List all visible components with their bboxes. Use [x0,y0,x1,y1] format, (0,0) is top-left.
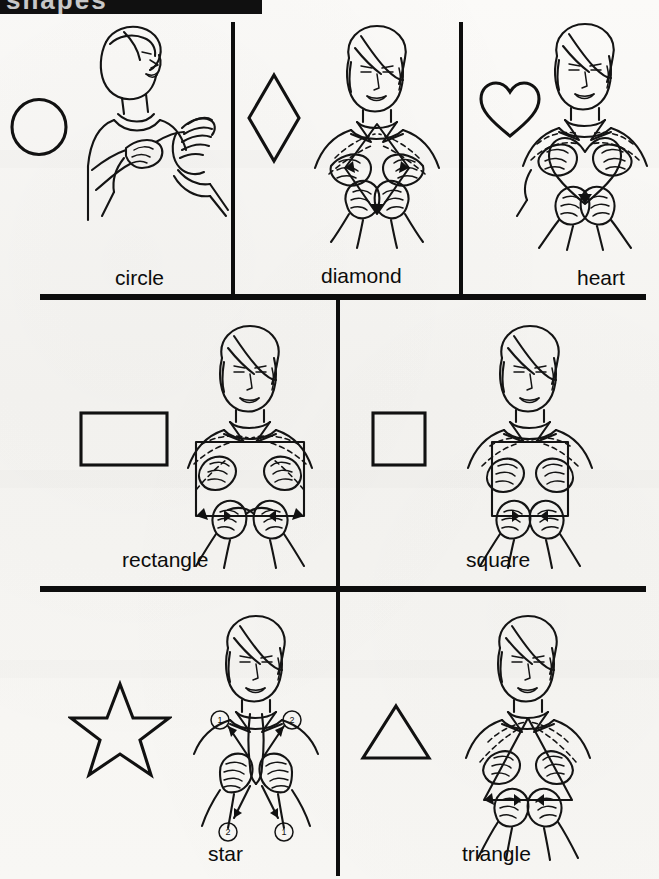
entry-circle[interactable]: circle [0,18,231,294]
entry-label-circle: circle [115,266,164,290]
entry-rectangle[interactable]: rectangle [0,300,336,586]
step-number-4: 1 [281,827,286,837]
signer-figure-square [446,314,614,572]
page-header-bar: shapes [0,0,262,14]
entry-label-diamond: diamond [321,264,402,288]
signer-figure-heart [483,18,659,253]
step-number-1: 1 [217,715,222,725]
step-number-3: 2 [225,827,230,837]
step-number-2: 2 [289,715,294,725]
signer-figure-diamond [291,18,459,253]
circle-outline-icon [8,96,70,158]
signer-figure-star: 1 2 2 1 [176,614,336,864]
page-title: shapes [6,0,108,14]
rectangle-outline-icon [78,410,170,468]
entry-label-heart: heart [577,266,625,290]
entry-square[interactable]: square [338,300,659,586]
triangle-outline-icon [360,702,432,762]
entry-label-square: square [466,548,530,572]
entry-label-star: star [208,842,243,866]
entry-diamond[interactable]: diamond [233,18,459,294]
entry-triangle[interactable]: triangle [338,592,659,879]
signer-figure-rectangle [166,314,334,572]
entry-label-triangle: triangle [462,842,531,866]
square-outline-icon [370,410,428,468]
signer-figure-circle [62,20,232,240]
entry-star[interactable]: 1 2 2 1 star [0,592,336,879]
entry-label-rectangle: rectangle [122,548,208,572]
star-outline-icon [68,680,172,780]
signer-figure-triangle [444,610,612,866]
entry-heart[interactable]: heart [461,18,659,294]
